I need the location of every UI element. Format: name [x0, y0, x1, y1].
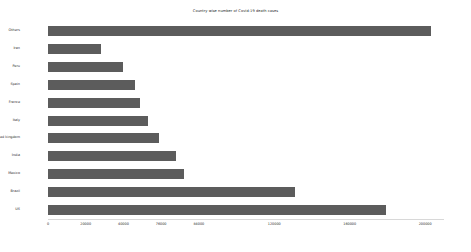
y-tick-label: Spain	[11, 83, 20, 86]
x-tick-label: 120000	[268, 223, 281, 226]
bar-row	[48, 133, 444, 143]
y-tick-label: France	[9, 101, 20, 104]
y-tick-label: Iran	[13, 47, 20, 50]
bar-iran	[48, 44, 101, 54]
x-tick-label: 84000	[193, 223, 204, 226]
bar-united-kingdom	[48, 133, 159, 143]
y-tick-label: Others	[9, 29, 20, 32]
bar-spain	[48, 80, 135, 90]
bar-brazil	[48, 187, 295, 197]
bar-row	[48, 44, 444, 54]
x-tick-label: 40000	[118, 223, 129, 226]
bar-row	[48, 26, 444, 36]
bar-mexico	[48, 169, 184, 179]
y-tick-label: Brazil	[11, 190, 20, 193]
bar-india	[48, 151, 176, 161]
bar-row	[48, 62, 444, 72]
chart-figure: Country wise number of Covid-19 death ca…	[0, 0, 471, 252]
bar-row	[48, 116, 444, 126]
bar-row	[48, 187, 444, 197]
x-tick-label: 0	[47, 223, 49, 226]
x-tick-label: 20000	[80, 223, 91, 226]
x-axis-line	[48, 219, 444, 220]
x-tick-label: 160000	[343, 223, 356, 226]
bar-peru	[48, 62, 123, 72]
y-tick-label: US	[15, 208, 20, 211]
bar-row	[48, 151, 444, 161]
plot-area	[48, 22, 444, 219]
bar-us	[48, 205, 386, 215]
bar-row	[48, 98, 444, 108]
y-tick-label: India	[12, 154, 20, 157]
x-tick-label: 200000	[419, 223, 432, 226]
bar-france	[48, 98, 140, 108]
y-tick-label: Italy	[13, 119, 20, 122]
y-tick-label: Peru	[12, 65, 20, 68]
bar-italy	[48, 116, 148, 126]
chart-title: Country wise number of Covid-19 death ca…	[0, 9, 471, 13]
bar-row	[48, 169, 444, 179]
bar-others	[48, 26, 431, 36]
bar-row	[48, 80, 444, 90]
bar-row	[48, 205, 444, 215]
x-tick-label: 76000	[156, 223, 167, 226]
y-tick-label: Mexico	[8, 172, 20, 175]
y-tick-label: United kingdom	[0, 136, 20, 139]
